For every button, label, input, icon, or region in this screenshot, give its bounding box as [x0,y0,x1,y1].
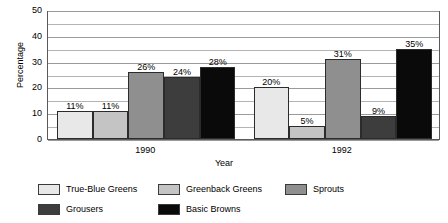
y-axis-tick-label: 0 [0,135,42,144]
bar [57,111,93,139]
y-axis-tick-label: 40 [0,32,42,41]
bar-value-label: 28% [196,58,240,67]
x-axis-title: Year [0,158,448,168]
x-axis-group-label: 1990 [47,145,244,155]
legend-swatch-icon [158,204,180,215]
bar [325,59,361,139]
bar-value-label: 9% [357,107,401,116]
gridline [48,37,439,38]
bar-value-label: 5% [285,117,329,126]
legend-item[interactable]: Greenback Greens [158,184,262,195]
gridline [48,88,439,89]
gridline [48,11,439,12]
legend-swatch-icon [38,184,60,195]
bar [289,126,325,139]
legend-swatch-icon [285,184,307,195]
bar [200,67,236,139]
gridline [48,50,439,51]
y-axis-tick-label: 30 [0,58,42,67]
y-axis-tick-label: 10 [0,109,42,118]
y-axis-tick-label: 50 [0,6,42,15]
legend-swatch-icon [158,184,180,195]
gridline [48,63,439,64]
bar [254,87,290,139]
legend-item[interactable]: Sprouts [285,184,344,195]
legend-item[interactable]: True-Blue Greens [38,184,137,195]
x-axis-group-label: 1992 [244,145,441,155]
bar-value-label: 20% [250,78,294,87]
bar [93,111,129,139]
legend-item-label: Greenback Greens [186,184,262,195]
legend-item-label: Sprouts [313,184,344,195]
y-axis-tick-label: 20 [0,83,42,92]
bar [164,77,200,139]
gridline [48,76,439,77]
legend-item[interactable]: Grousers [38,204,103,215]
legend-item-label: True-Blue Greens [66,184,137,195]
bar-chart: Percentage 01020304050 11%11%26%24%28%20… [0,0,448,223]
legend-swatch-icon [38,204,60,215]
plot-area: 11%11%26%24%28%20%5%31%9%35% [47,11,440,140]
bar [361,116,397,139]
bar [396,49,432,139]
bar-value-label: 35% [392,40,436,49]
bar-value-label: 31% [321,50,365,59]
bar [128,72,164,139]
legend-item[interactable]: Basic Browns [158,204,241,215]
chart-legend: True-Blue GreensGreenback GreensSproutsG… [38,184,438,220]
bar-value-label: 11% [89,102,133,111]
legend-item-label: Grousers [66,204,103,215]
bar-value-label: 24% [160,68,204,77]
gridline [48,24,439,25]
legend-item-label: Basic Browns [186,204,241,215]
gridline [48,140,439,141]
